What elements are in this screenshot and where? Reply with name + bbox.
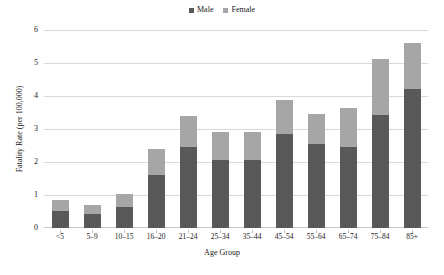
bar-slot [236,30,268,228]
bar-slot [268,30,300,228]
x-axis-tick-label: 25–34 [204,230,236,244]
bar-segment-male[interactable] [244,160,261,228]
chart-legend: Male Female [0,6,444,14]
x-axis-tickmark [92,230,93,233]
x-axis-tick-label: 35–44 [236,230,268,244]
bar-segment-male[interactable] [212,160,229,228]
bar-stack[interactable] [180,116,197,228]
plot-area [44,30,428,228]
bar-segment-male[interactable] [180,147,197,228]
bar-segment-female[interactable] [308,114,325,144]
bar-segment-male[interactable] [148,175,165,228]
bar-slot [396,30,428,228]
y-axis-tick-label: 4 [34,92,38,100]
bar-segment-male[interactable] [116,207,133,228]
bar-segment-male[interactable] [372,115,389,228]
bar-segment-female[interactable] [276,100,293,134]
x-axis-tickmark [124,230,125,233]
x-axis-title: Age Group [0,248,444,257]
bar-slot [76,30,108,228]
x-axis-tick-label: 5–9 [76,230,108,244]
bar-stack[interactable] [52,200,69,228]
x-axis-tickmark [412,230,413,233]
x-axis-tick-label: 65–74 [332,230,364,244]
legend-item-male[interactable]: Male [189,6,213,14]
bar-segment-male[interactable] [276,134,293,228]
bar-segment-male[interactable] [340,147,357,229]
bar-segment-female[interactable] [116,194,133,208]
y-axis-tick-label: 6 [34,26,38,34]
bar-segment-male[interactable] [52,211,69,228]
bar-slot [364,30,396,228]
bar-slot [44,30,76,228]
bar-segment-female[interactable] [404,43,421,90]
legend-swatch-male [189,8,194,13]
bar-slot [172,30,204,228]
chart-container: Male Female Fatality Rate (per 100,000) … [0,0,444,275]
bar-stack[interactable] [116,194,133,228]
legend-label-male: Male [197,6,213,14]
bar-segment-female[interactable] [148,149,165,174]
bar-stack[interactable] [276,100,293,228]
y-axis-ticks: 6543210 [0,30,44,228]
bar-segment-female[interactable] [84,205,101,214]
bar-stack[interactable] [212,132,229,228]
legend-label-female: Female [231,6,255,14]
x-axis-tickmark [60,230,61,233]
x-axis-tick-label: 10–15 [108,230,140,244]
x-axis-tickmark [316,230,317,233]
x-axis-tickmark [348,230,349,233]
x-axis-tick-label: 16–20 [140,230,172,244]
bar-segment-male[interactable] [404,89,421,228]
bar-segment-female[interactable] [212,132,229,159]
bar-segment-female[interactable] [340,108,357,147]
y-axis-tick-label: 3 [34,125,38,133]
bar-slot [108,30,140,228]
bar-segment-female[interactable] [52,200,69,211]
bar-segment-male[interactable] [308,144,325,228]
x-axis-tick-label: 85+ [396,230,428,244]
bar-segment-female[interactable] [180,116,197,147]
bar-slot [332,30,364,228]
x-axis-tickmark [380,230,381,233]
y-axis-tick-label: 5 [34,59,38,67]
y-axis-tick-label: 1 [34,191,38,199]
x-axis-tickmark [220,230,221,233]
bar-stack[interactable] [340,108,357,228]
bar-slot [140,30,172,228]
legend-swatch-female [223,8,228,13]
bar-slot [204,30,236,228]
bar-segment-male[interactable] [84,214,101,228]
y-axis-tick-label: 2 [34,158,38,166]
x-axis-tick-label: <5 [44,230,76,244]
x-axis-tick-label: 55–64 [300,230,332,244]
bar-stack[interactable] [84,205,101,228]
legend-item-female[interactable]: Female [223,6,255,14]
x-axis-tickmark [188,230,189,233]
bar-stack[interactable] [308,114,325,229]
y-axis-tick-label: 0 [34,224,38,232]
bar-slot [300,30,332,228]
bar-segment-female[interactable] [372,59,389,115]
bar-stack[interactable] [404,43,421,228]
bar-stack[interactable] [372,59,389,228]
x-axis-tickmark [156,230,157,233]
x-axis-tick-label: 45–54 [268,230,300,244]
x-axis-tickmark [284,230,285,233]
x-axis-tickmark [252,230,253,233]
x-axis-tick-label: 21–24 [172,230,204,244]
bar-stack[interactable] [148,149,165,228]
bar-segment-female[interactable] [244,132,261,160]
bar-series-group [44,30,428,228]
bar-stack[interactable] [244,132,261,228]
x-axis-tick-label: 75–84 [364,230,396,244]
x-axis-ticks: <55–910–1516–2021–2425–3435–4445–5455–64… [44,230,428,244]
